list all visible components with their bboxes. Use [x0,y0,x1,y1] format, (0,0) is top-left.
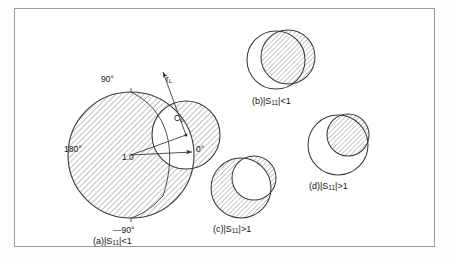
caption-c-prefix: (c) [213,224,224,234]
caption-d-suffix: |>1 [335,181,348,191]
caption-a-suffix: |<1 [119,236,132,246]
label-radius-rL: rL [166,74,172,84]
panel-b-hatch-region [255,25,330,95]
caption-panel-b: (b)|S11|<1 [252,96,291,106]
panel-d-hatch-region [320,110,380,165]
label-minus-90-degrees: —90° [113,225,134,235]
label-180-degrees: 180° [64,144,82,154]
panel-c-hatch-region [205,150,285,225]
label-center-CL-subscript: L [180,117,183,123]
caption-panel-c: (c)|S11|>1 [213,224,251,234]
caption-c-mid: |S [224,224,232,234]
caption-b-suffix: |<1 [278,96,291,106]
caption-panel-d: (d)|S11|>1 [309,181,348,191]
caption-c-sub: 11 [232,227,239,234]
label-center-CL: CL [174,113,183,123]
panel-a-graphics [60,72,240,230]
figure-container: 90° 180° 0° —90° 1.0 CL rL (a)|S11|<1 (b… [0,0,450,258]
panel-d-graphics [308,110,380,175]
diagram-canvas [0,0,450,258]
caption-b-prefix: (b) [252,96,263,106]
caption-panel-a: (a)|S11|<1 [93,236,132,246]
caption-c-suffix: |>1 [239,224,252,234]
label-0-degrees: 0° [196,144,204,154]
label-90-degrees: 90° [101,74,114,84]
label-radius-rL-subscript: L [169,78,172,84]
label-unit-radius: 1.0 [122,152,134,162]
panel-b-graphics [247,25,330,95]
caption-d-prefix: (d) [309,181,320,191]
caption-a-prefix: (a) [93,236,104,246]
panel-c-graphics [205,150,285,225]
